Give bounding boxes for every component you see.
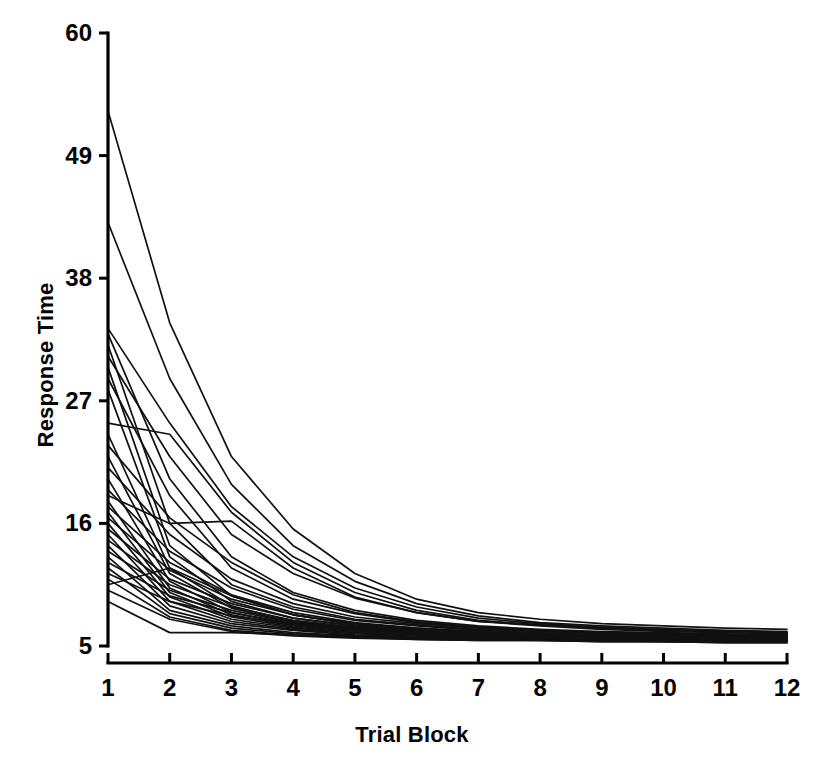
series-line: [108, 356, 787, 632]
x-axis-tick-label: 12: [774, 674, 801, 701]
line-chart: 51627384960123456789101112: [0, 0, 824, 773]
y-axis-tick-label: 5: [79, 632, 92, 659]
x-axis-tick-label: 2: [163, 674, 176, 701]
y-axis-tick-label: 16: [65, 509, 92, 536]
y-axis-title: Response Time: [33, 275, 59, 455]
series-line: [108, 222, 787, 631]
series-line: [108, 345, 787, 635]
figure-container: 51627384960123456789101112 Trial Block R…: [0, 0, 824, 773]
y-axis-tick-label: 60: [65, 19, 92, 46]
y-axis-tick-label: 49: [65, 142, 92, 169]
x-axis-tick-label: 6: [410, 674, 423, 701]
y-axis-tick-label: 27: [65, 387, 92, 414]
y-axis-tick-label: 38: [65, 264, 92, 291]
x-axis-tick-label: 7: [472, 674, 485, 701]
series-line: [108, 111, 787, 629]
x-axis-tick-label: 8: [533, 674, 546, 701]
x-axis-tick-label: 11: [713, 674, 738, 701]
x-axis-title: Trial Block: [0, 722, 824, 748]
x-axis-tick-label: 10: [650, 674, 677, 701]
x-axis-tick-label: 5: [348, 674, 361, 701]
x-axis-tick-label: 4: [287, 674, 301, 701]
axes-group: [99, 33, 787, 663]
x-axis-tick-label: 9: [595, 674, 608, 701]
x-axis-tick-label: 3: [225, 674, 238, 701]
series-group: [108, 111, 787, 643]
series-line: [108, 523, 787, 639]
x-axis-tick-label: 1: [101, 674, 114, 701]
